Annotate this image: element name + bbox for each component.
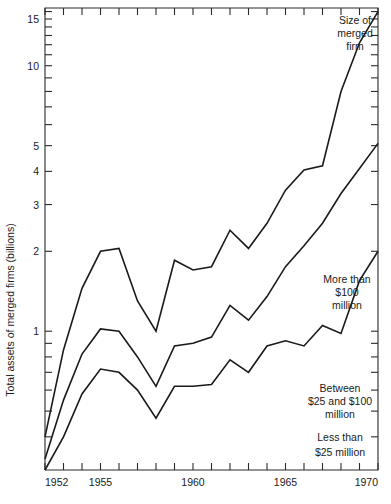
annotation-less-than-25-million: Less than $25 million [315, 431, 365, 458]
y-axis-title: Total assets of merged firms (billions) [4, 223, 16, 396]
x-tick-label: 1960 [181, 476, 205, 488]
y-tick-label: 10 [27, 60, 39, 72]
annotation-size-of-merged-firm: Size of merged firm [337, 14, 373, 52]
y-tick-label: 2 [33, 245, 39, 257]
x-tick-label: 1952 [45, 476, 69, 488]
x-tick-label: 1965 [274, 476, 298, 488]
y-tick-labels: 123451015 [27, 13, 39, 337]
chart-svg: 19521955196019651970 123451015 Total ass… [0, 0, 391, 504]
annot-line: firm [346, 40, 364, 52]
annotation-between-25-and-100-million: Between $25 and $100 million [308, 382, 372, 420]
y-tick-label: 3 [33, 199, 39, 211]
y-tick-label: 5 [33, 140, 39, 152]
y-tick-label: 15 [27, 13, 39, 25]
annot-line: Less than [317, 431, 363, 443]
annot-line: $25 million [315, 446, 365, 458]
merger-assets-chart: 19521955196019651970 123451015 Total ass… [0, 0, 391, 504]
annotation-more-than-100-million: More than $100 million [323, 273, 370, 311]
annot-line: $100 [335, 286, 359, 298]
y-tick-label: 1 [33, 325, 39, 337]
annot-line: million [325, 408, 355, 420]
y-axis-ticks [45, 12, 378, 437]
series-line-0 [45, 12, 378, 437]
x-tick-label: 1970 [355, 476, 379, 488]
annot-line: merged [337, 27, 373, 39]
annot-line: More than [323, 273, 370, 285]
x-tick-label: 1955 [89, 476, 113, 488]
x-tick-labels: 19521955196019651970 [45, 476, 378, 488]
annot-line: Size of [339, 14, 371, 26]
annot-line: $25 and $100 [308, 395, 372, 407]
annot-line: Between [320, 382, 361, 394]
y-tick-label: 4 [33, 165, 39, 177]
annot-line: million [332, 299, 362, 311]
